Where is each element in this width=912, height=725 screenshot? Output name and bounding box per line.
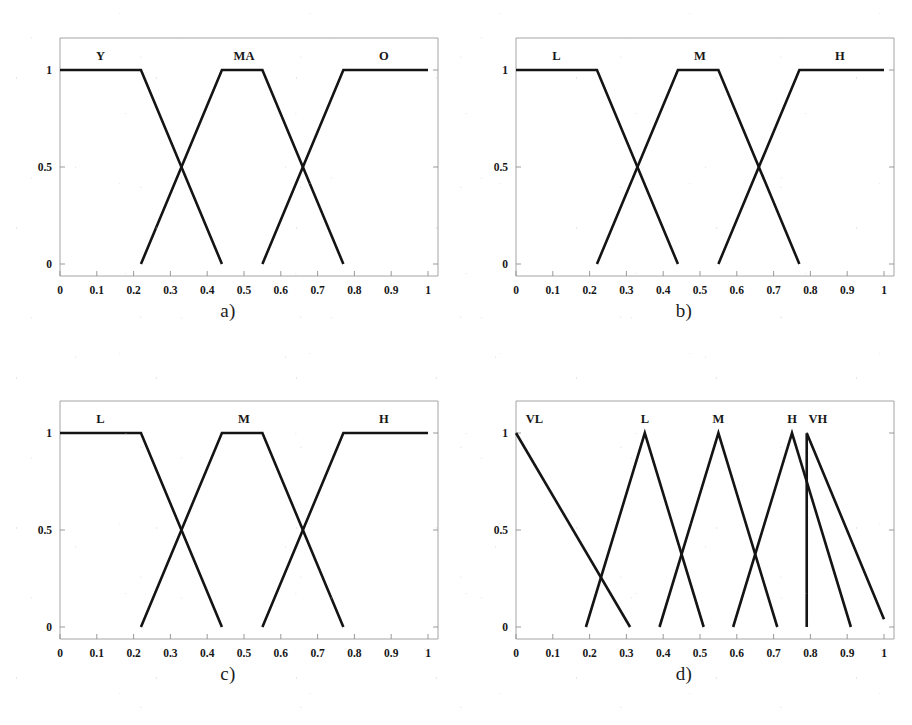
set-label-l: L — [96, 412, 104, 426]
x-tick-label: 0.3 — [163, 647, 178, 659]
figure-grid: 00.10.20.30.40.50.60.70.80.9100.51YMAO a… — [0, 0, 912, 725]
membership-curve-h — [262, 433, 428, 627]
set-label-o: O — [379, 49, 389, 63]
membership-curve-m — [141, 433, 343, 627]
set-label-m: M — [694, 49, 706, 63]
x-tick-label: 0.5 — [693, 284, 708, 296]
x-tick-label: 0.2 — [126, 647, 141, 659]
set-label-ma: MA — [234, 49, 255, 63]
panel-caption-b: b) — [456, 300, 912, 322]
chart-panel-d: 00.10.20.30.40.50.60.70.80.9100.51VLLMHV… — [456, 363, 912, 725]
plot-frame — [60, 38, 438, 276]
panel-caption-c: c) — [0, 663, 456, 685]
membership-curve-o — [262, 70, 428, 264]
membership-curve-h — [718, 70, 884, 264]
x-tick-label: 0.8 — [347, 647, 362, 659]
x-tick-label: 0.3 — [619, 284, 634, 296]
y-tick-label: 1 — [46, 427, 52, 439]
x-tick-label: 0.7 — [766, 647, 781, 659]
set-label-h: H — [787, 412, 797, 426]
x-tick-label: 0.8 — [803, 647, 818, 659]
x-tick-label: 0.6 — [274, 647, 289, 659]
chart-panel-c: 00.10.20.30.40.50.60.70.80.9100.51LMH c) — [0, 363, 456, 725]
membership-curve-l — [586, 433, 704, 627]
set-label-m: M — [238, 412, 250, 426]
y-tick-label: 0.5 — [494, 524, 509, 536]
y-tick-label: 0 — [46, 258, 52, 270]
set-label-h: H — [379, 412, 389, 426]
x-tick-label: 0.3 — [163, 284, 178, 296]
x-tick-label: 0.8 — [803, 284, 818, 296]
membership-curve-vl — [516, 433, 630, 627]
x-tick-label: 1 — [881, 284, 887, 296]
y-tick-label: 0.5 — [494, 161, 509, 173]
x-tick-label: 0.4 — [656, 647, 671, 659]
x-tick-label: 1 — [425, 284, 431, 296]
x-tick-label: 0.9 — [840, 647, 855, 659]
set-label-vl: VL — [526, 412, 543, 426]
y-tick-label: 0.5 — [38, 524, 53, 536]
x-tick-label: 0.9 — [840, 284, 855, 296]
y-tick-label: 0 — [502, 621, 508, 633]
x-tick-label: 0.3 — [619, 647, 634, 659]
membership-curve-m — [660, 433, 778, 627]
x-tick-label: 0.1 — [546, 284, 561, 296]
x-tick-label: 0.2 — [582, 284, 597, 296]
set-label-l: L — [552, 49, 560, 63]
panel-caption-a: a) — [0, 300, 456, 322]
x-tick-label: 0.5 — [693, 647, 708, 659]
x-tick-label: 0.6 — [274, 284, 289, 296]
x-tick-label: 0.1 — [546, 647, 561, 659]
x-tick-label: 0 — [57, 647, 63, 659]
y-tick-label: 0 — [46, 621, 52, 633]
x-tick-label: 0.4 — [200, 647, 215, 659]
chart-panel-a: 00.10.20.30.40.50.60.70.80.9100.51YMAO a… — [0, 0, 456, 362]
x-tick-label: 0.5 — [237, 647, 252, 659]
plot-frame — [516, 401, 894, 639]
y-tick-label: 0.5 — [38, 161, 53, 173]
x-tick-label: 1 — [425, 647, 431, 659]
set-label-vh: VH — [808, 412, 827, 426]
x-tick-label: 0.7 — [310, 647, 325, 659]
x-tick-label: 0.5 — [237, 284, 252, 296]
set-label-y: Y — [96, 49, 105, 63]
x-tick-label: 0.4 — [656, 284, 671, 296]
membership-curve-m — [597, 70, 799, 264]
x-tick-label: 0 — [513, 647, 519, 659]
x-tick-label: 0.2 — [582, 647, 597, 659]
plot-frame — [516, 38, 894, 276]
plot-frame — [60, 401, 438, 639]
membership-curve-vh — [807, 433, 884, 627]
y-tick-label: 1 — [46, 64, 52, 76]
x-tick-label: 0 — [57, 284, 63, 296]
set-label-m: M — [712, 412, 724, 426]
x-tick-label: 0.6 — [730, 647, 745, 659]
x-tick-label: 0 — [513, 284, 519, 296]
y-tick-label: 0 — [502, 258, 508, 270]
x-tick-label: 0.9 — [384, 284, 399, 296]
x-tick-label: 0.2 — [126, 284, 141, 296]
membership-curve-l — [516, 70, 678, 264]
membership-curve-h — [733, 433, 851, 627]
membership-curve-l — [60, 433, 222, 627]
y-tick-label: 1 — [502, 427, 508, 439]
x-tick-label: 0.7 — [766, 284, 781, 296]
y-tick-label: 1 — [502, 64, 508, 76]
membership-curve-y — [60, 70, 222, 264]
x-tick-label: 0.4 — [200, 284, 215, 296]
set-label-h: H — [835, 49, 845, 63]
x-tick-label: 0.6 — [730, 284, 745, 296]
x-tick-label: 0.8 — [347, 284, 362, 296]
panel-caption-d: d) — [456, 663, 912, 685]
membership-curve-ma — [141, 70, 343, 264]
x-tick-label: 0.9 — [384, 647, 399, 659]
set-label-l: L — [641, 412, 649, 426]
chart-panel-b: 00.10.20.30.40.50.60.70.80.9100.51LMH b) — [456, 0, 912, 362]
x-tick-label: 0.1 — [90, 647, 105, 659]
x-tick-label: 0.7 — [310, 284, 325, 296]
x-tick-label: 1 — [881, 647, 887, 659]
x-tick-label: 0.1 — [90, 284, 105, 296]
